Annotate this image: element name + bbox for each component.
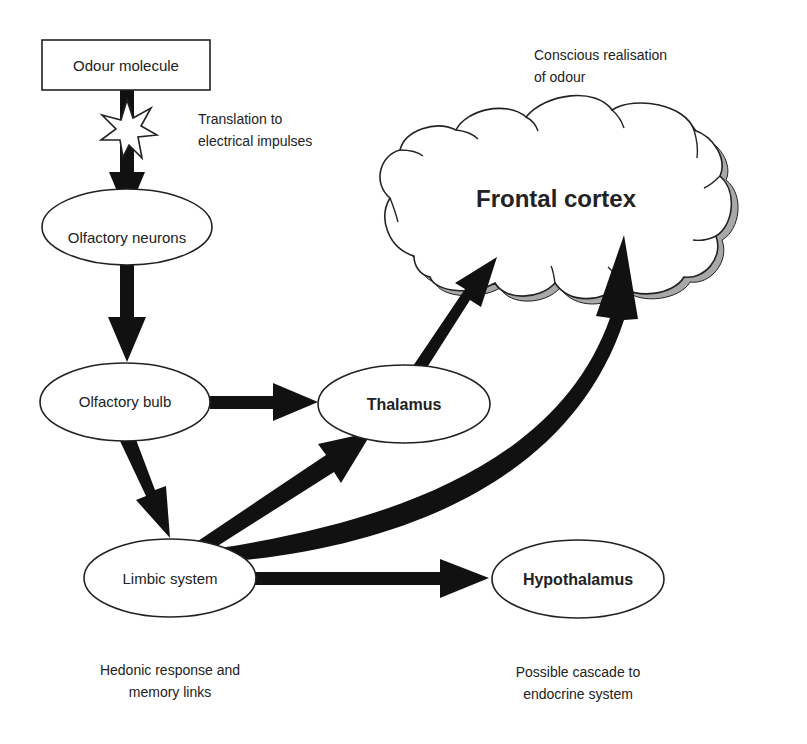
node-odour-molecule: Odour molecule <box>42 40 210 90</box>
olfaction-pathway-diagram: Frontal cortex Odour molecule Olfactory … <box>0 0 807 744</box>
olfactory-neurons-label: Olfactory neurons <box>68 229 186 246</box>
annotation-cascade: Possible cascade to endocrine system <box>516 664 641 702</box>
annotation-conscious: Conscious realisation of odour <box>534 47 667 85</box>
annotation-translation: Translation to electrical impulses <box>198 111 312 149</box>
svg-text:Translation to: Translation to <box>198 111 283 127</box>
arrow-limbic-to-hypothalamus <box>254 559 489 598</box>
limbic-system-label: Limbic system <box>122 570 217 587</box>
arrow-bulb-to-limbic <box>120 437 170 538</box>
odour-molecule-label: Odour molecule <box>73 57 179 74</box>
olfactory-bulb-label: Olfactory bulb <box>79 393 172 410</box>
node-olfactory-bulb: Olfactory bulb <box>40 363 210 441</box>
node-thalamus: Thalamus <box>318 365 490 443</box>
svg-text:of odour: of odour <box>534 69 586 85</box>
svg-text:memory links: memory links <box>129 684 211 700</box>
frontal-cortex-label: Frontal cortex <box>476 185 637 212</box>
arrow-bulb-to-thalamus <box>210 383 318 421</box>
thalamus-label: Thalamus <box>367 396 442 413</box>
annotation-hedonic: Hedonic response and memory links <box>100 662 240 700</box>
svg-text:Possible cascade to: Possible cascade to <box>516 664 641 680</box>
svg-text:Hedonic response and: Hedonic response and <box>100 662 240 678</box>
hypothalamus-label: Hypothalamus <box>523 571 633 588</box>
node-limbic-system: Limbic system <box>84 539 256 617</box>
svg-text:endocrine system: endocrine system <box>523 686 633 702</box>
svg-text:electrical impulses: electrical impulses <box>198 133 312 149</box>
svg-text:Conscious realisation: Conscious realisation <box>534 47 667 63</box>
node-olfactory-neurons: Olfactory neurons <box>42 189 212 265</box>
frontal-cortex-cloud: Frontal cortex <box>380 96 738 304</box>
node-hypothalamus: Hypothalamus <box>492 540 664 618</box>
arrow-neurons-to-bulb <box>108 265 146 362</box>
